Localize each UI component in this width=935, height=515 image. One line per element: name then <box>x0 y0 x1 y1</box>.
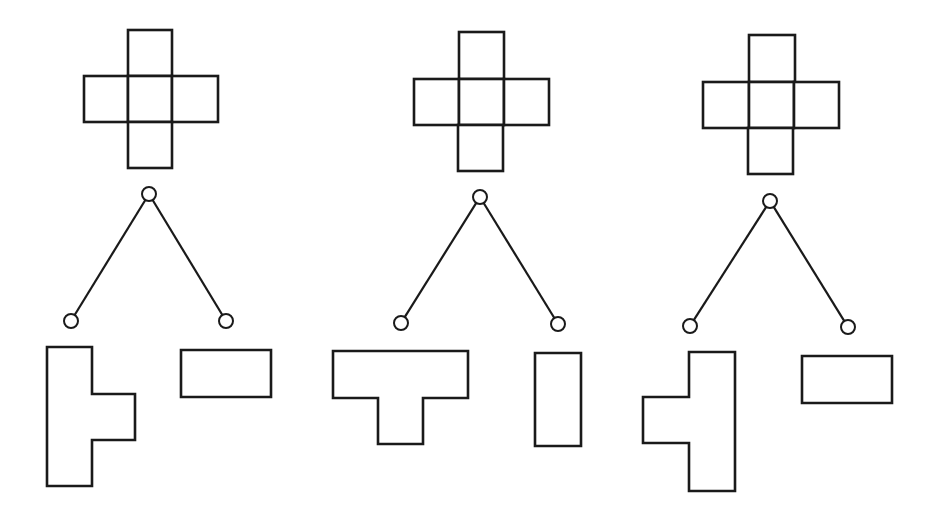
tree-left-node-icon <box>394 316 408 330</box>
tree-root-node-icon <box>473 190 487 204</box>
plus-pentomino-figure <box>84 30 218 168</box>
right-piece-domino <box>802 356 892 403</box>
cross-square <box>414 79 459 125</box>
panels <box>47 30 892 491</box>
cross-square <box>749 82 794 128</box>
tree-edge-right <box>484 203 555 318</box>
left-piece-tetromino <box>643 352 735 491</box>
cross-square <box>128 76 172 122</box>
plus-pentomino-figure <box>703 35 839 174</box>
cross-square <box>749 35 795 82</box>
cross-square <box>458 125 503 171</box>
tree-edge-right <box>774 207 845 321</box>
left-piece-tetromino <box>333 351 468 444</box>
panel-1 <box>47 30 271 486</box>
tree-left-node-icon <box>64 314 78 328</box>
cross-square <box>128 30 172 76</box>
split-tree <box>394 190 565 331</box>
diagram-canvas <box>0 0 935 515</box>
tree-right-node-icon <box>219 314 233 328</box>
tree-root-node-icon <box>142 187 156 201</box>
panel-2 <box>333 32 581 446</box>
left-piece-tetromino <box>47 347 135 486</box>
cross-square <box>84 76 128 122</box>
cross-square <box>703 82 749 128</box>
cross-square <box>459 32 504 79</box>
cross-square <box>504 79 549 125</box>
split-tree <box>64 187 233 328</box>
tree-edge-left <box>405 203 477 317</box>
tree-left-node-icon <box>683 319 697 333</box>
tree-right-node-icon <box>551 317 565 331</box>
plus-pentomino-figure <box>414 32 549 171</box>
cross-square <box>459 79 504 125</box>
panel-3 <box>643 35 892 491</box>
tree-root-node-icon <box>763 194 777 208</box>
cross-square <box>748 128 793 174</box>
right-piece-domino <box>535 353 581 446</box>
tree-edge-right <box>153 200 223 315</box>
cross-square <box>128 122 172 168</box>
tree-right-node-icon <box>841 320 855 334</box>
cross-square <box>172 76 218 122</box>
right-piece-domino <box>181 350 271 397</box>
tree-edge-left <box>694 207 766 320</box>
tree-edge-left <box>75 200 146 315</box>
cross-square <box>794 82 839 128</box>
split-tree <box>683 194 855 334</box>
